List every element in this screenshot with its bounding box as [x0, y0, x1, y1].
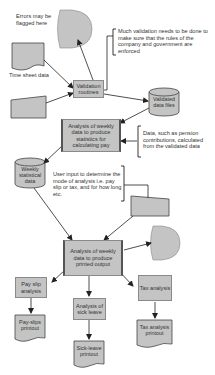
time-sheet-label: Time sheet data [9, 72, 59, 79]
manual-input-shape [11, 96, 46, 118]
validated-files-label: Validated data files [150, 96, 178, 108]
pension-note-bracket [138, 126, 141, 157]
analysis-print-box: Analysis of weekly data to produce print… [63, 240, 123, 276]
pension-note-text: Data, such as pension contributions, cal… [143, 130, 213, 150]
sick-leave-printout-label: Sick-leave printout [75, 345, 103, 357]
validation-note-connector [104, 36, 113, 90]
time-sheet-document-shape [12, 43, 44, 70]
manual-input-2-shape [131, 196, 169, 216]
weekly-stats-label: Weekly statistical data [16, 166, 44, 185]
tax-analysis-label: Tax analysis [140, 285, 170, 292]
errors-note-label: Errors may be flagged here [16, 13, 54, 26]
sick-leave-analysis-box: Analysis of sick leave [73, 298, 106, 320]
tax-printout-label: Tax analysis printout [137, 324, 172, 336]
validation-routines-label: Validation routines [74, 83, 103, 96]
errors-display-shape [58, 10, 93, 48]
analysis-print-label: Analysis of weekly data to produce print… [65, 248, 121, 268]
analysis-pay-label: Analysis of weekly data to produce stati… [63, 123, 119, 149]
pay-slips-printout-label: Pay-slips printout [16, 319, 44, 331]
validation-note-text: Much validation needs to be done to make… [118, 28, 210, 54]
sick-leave-analysis-label: Analysis of sick leave [74, 303, 105, 316]
pay-slip-analysis-box: Pay slip analysis [15, 277, 47, 298]
output-display-shape [151, 226, 181, 260]
validation-routines-box: Validation routines [73, 80, 104, 98]
validation-note-bracket [113, 29, 116, 55]
analysis-pay-box: Analysis of weekly data to produce stati… [61, 119, 121, 152]
pay-slip-analysis-label: Pay slip analysis [16, 281, 46, 294]
user-input-note-text: User input to determine the mode of anal… [53, 171, 123, 197]
tax-analysis-box: Tax analysis [138, 275, 172, 301]
